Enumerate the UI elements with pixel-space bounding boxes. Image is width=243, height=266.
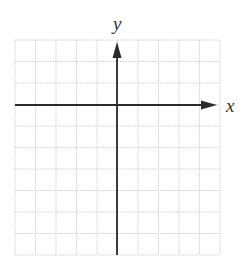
x-axis-arrowhead-icon: [201, 101, 217, 110]
x-axis-label: x: [225, 95, 235, 116]
y-axis-label: y: [111, 13, 122, 34]
axes: [15, 42, 217, 255]
coordinate-grid-diagram: y x: [0, 0, 243, 266]
y-axis-arrowhead-icon: [113, 42, 122, 58]
